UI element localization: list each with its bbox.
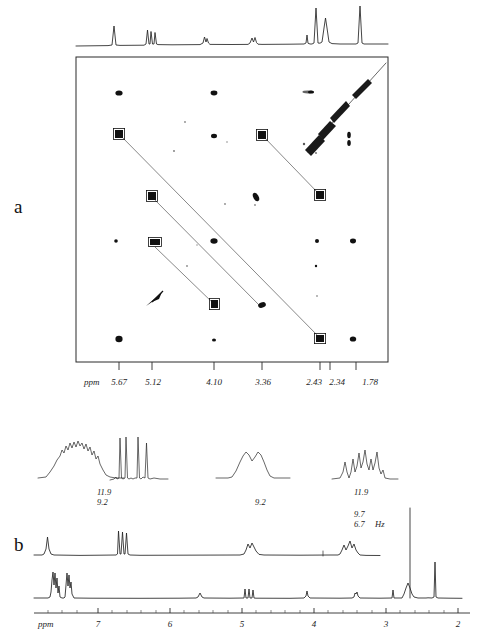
figure-canvas: ppm 5.67 5.12 4.10 3.36 2.43 2.34 1.78 1… — [0, 0, 498, 638]
j-value-left-2: 9.2 — [97, 497, 108, 507]
bottom-tick-label-5: 5 — [240, 619, 245, 629]
nmr-figure: a b — [0, 0, 498, 638]
peak-cluster — [113, 128, 124, 139]
j-value-right-3: 6.7 — [354, 519, 365, 529]
panel-b-trace — [34, 531, 380, 556]
bottom-tick-label-6: 6 — [168, 619, 173, 629]
expansion-multiplet-2 — [110, 437, 168, 480]
bottom-axis-major-ticks — [98, 608, 458, 613]
peak-cluster — [148, 237, 161, 246]
j-value-right-1: 11.9 — [354, 487, 369, 497]
peak-cluster — [209, 298, 219, 309]
panel-b-label: b — [14, 534, 24, 556]
cosy-tick-label-1: 5.67 — [111, 377, 127, 387]
cosy-axis-ticks — [119, 362, 356, 370]
j-value-left-1: 11.9 — [97, 487, 112, 497]
peak-cluster — [314, 189, 325, 200]
cosy-peaks — [113, 90, 356, 343]
cosy-tick-label-4: 3.36 — [254, 377, 271, 387]
arrow-annotation — [146, 291, 163, 306]
expansion-multiplet-1 — [38, 441, 124, 478]
peak-cluster — [314, 333, 325, 343]
bottom-axis-unit-label: ppm — [37, 619, 54, 629]
peak-cluster — [256, 129, 267, 140]
cosy-tick-label-6: 2.34 — [329, 377, 345, 387]
bottom-axis: ppm 7 6 5 4 3 2 — [34, 608, 470, 629]
bottom-tick-label-3: 3 — [383, 619, 389, 629]
j-unit-label: Hz — [374, 519, 385, 529]
cosy-tick-label-3: 4.10 — [206, 377, 222, 387]
bottom-tick-label-7: 7 — [96, 619, 101, 629]
cosy-axis-unit-label: ppm — [83, 377, 100, 387]
cosy-tick-label-5: 2.43 — [306, 377, 322, 387]
bottom-tick-label-2: 2 — [456, 619, 461, 629]
j-value-right-2: 9.7 — [354, 509, 365, 519]
peak-cluster — [146, 190, 157, 201]
f2-projection-trace — [76, 6, 388, 46]
cosy-plot-frame — [76, 57, 388, 362]
cosy-tick-label-2: 5.12 — [145, 377, 161, 387]
full-spectrum-trace — [34, 508, 462, 598]
cosy-tick-label-7: 1.78 — [362, 377, 378, 387]
bottom-tick-label-4: 4 — [312, 619, 317, 629]
cosy-diagonal-streak — [305, 63, 386, 156]
panel-a-label: a — [14, 196, 22, 218]
expansion-multiplet-4 — [332, 450, 398, 479]
j-value-middle-1: 9.2 — [255, 497, 266, 507]
expansion-multiplet-3 — [216, 452, 290, 478]
